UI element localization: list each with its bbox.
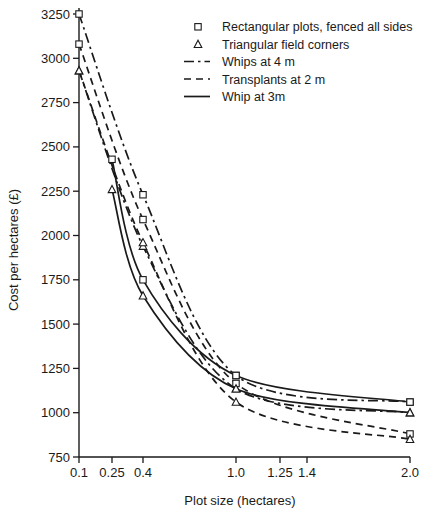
square-marker [109,156,115,162]
square-marker [140,192,146,198]
y-axis-title: Cost per hectares (£) [6,189,21,311]
y-tick-label: 1750 [41,272,70,287]
legend-square-marker-icon [195,24,201,30]
legend-item-label: Rectangular plots, fenced all sides [222,20,412,34]
x-tick-label: 1.25 [267,465,292,480]
y-tick-label: 750 [48,450,70,465]
square-marker [76,11,82,17]
y-tick-label: 1000 [41,405,70,420]
legend-item-label: Whips at 4 m [222,55,295,69]
square-marker [140,216,146,222]
x-tick-label: 1.4 [298,465,316,480]
chart-canvas: 7501000125015001750200022502500275030003… [0,0,424,519]
figure-caption-strip [0,508,424,519]
x-axis-title: Plot size (hectares) [184,493,295,508]
chart-background [0,0,424,519]
y-tick-label: 2250 [41,184,70,199]
square-marker [233,372,239,378]
legend-item-label: Whip at 3m [222,90,285,104]
figure: 7501000125015001750200022502500275030003… [0,0,424,519]
y-tick-label: 2750 [41,95,70,110]
legend-item-label: Transplants at 2 m [222,73,325,87]
y-tick-label: 3250 [41,7,70,22]
legend-item-label: Triangular field corners [222,38,349,52]
square-marker [140,277,146,283]
y-tick-label: 1500 [41,317,70,332]
x-tick-label: 0.1 [70,465,88,480]
square-marker [76,41,82,47]
x-tick-label: 0.25 [99,465,124,480]
square-marker [407,399,413,405]
y-tick-label: 1250 [41,361,70,376]
x-tick-label: 0.4 [134,465,152,480]
y-tick-label: 3000 [41,51,70,66]
x-tick-label: 1.0 [227,465,245,480]
x-tick-label: 2.0 [401,465,419,480]
y-tick-label: 2500 [41,139,70,154]
y-tick-label: 2000 [41,228,70,243]
